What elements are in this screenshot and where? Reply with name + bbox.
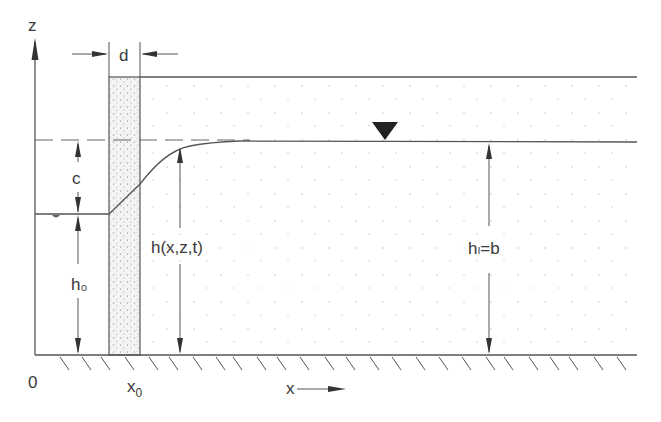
d-left-arrow-icon	[92, 51, 108, 57]
c-down-arrow-icon	[75, 197, 81, 213]
origin-label: 0	[28, 373, 37, 392]
h-profile-label: h(x,z,t)	[151, 238, 203, 257]
c-up-arrow-icon	[75, 141, 81, 157]
h0-label-text: h₀	[71, 275, 88, 294]
hl-label: hₗ=b	[468, 239, 500, 258]
x-axis-arrow-icon	[328, 386, 346, 392]
x0-label: x0	[127, 377, 143, 400]
z-axis-label: z	[28, 16, 37, 35]
ground-hatching	[60, 357, 626, 370]
c-label: c	[72, 169, 81, 188]
h0-label: h₀	[71, 275, 88, 294]
h0-up-arrow-icon	[75, 215, 81, 231]
x0-label-sub: 0	[136, 386, 143, 400]
d-label: d	[119, 46, 128, 65]
d-right-arrow-icon	[141, 51, 157, 57]
aquifer-region	[140, 77, 637, 355]
x-axis-label: x	[286, 379, 295, 398]
h0-down-arrow-icon	[75, 338, 81, 354]
left-water-mark	[52, 215, 60, 218]
barrier-wall	[109, 77, 140, 355]
aquifer-barrier-diagram: z d c h₀ h(x,z,t) hₗ=b	[0, 0, 661, 422]
z-axis-arrow-icon	[32, 38, 39, 60]
